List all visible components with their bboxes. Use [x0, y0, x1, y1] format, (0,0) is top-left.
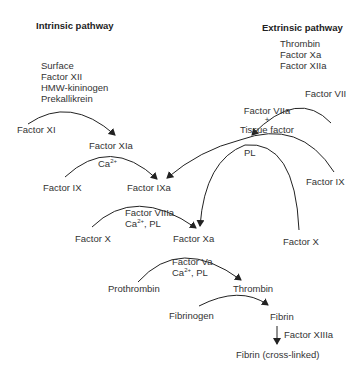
node-fibrin-crosslinked: Fibrin (cross-linked)	[236, 349, 319, 360]
intrinsic-pathway-title: Intrinsic pathway	[36, 20, 114, 31]
arrow-fibrinogen-to-fibrin	[199, 295, 268, 306]
node-fibrinogen: Fibrinogen	[169, 310, 214, 321]
node-factor-ix-right: Factor IX	[306, 176, 345, 187]
extrinsic-activators: Thrombin Factor Xa Factor XIIa	[280, 38, 326, 71]
node-thrombin: Thrombin	[233, 283, 273, 294]
extrinsic-pathway-title: Extrinsic pathway	[262, 22, 343, 33]
node-factor-ixa: Factor IXa	[127, 182, 171, 193]
intrinsic-activators: Surface Factor XII HMW-kininogen Prekall…	[41, 60, 108, 104]
cofactor-va: Factor Va Ca2+, PL	[172, 256, 212, 278]
node-factor-xa: Factor Xa	[173, 233, 214, 244]
node-prothrombin: Prothrombin	[108, 283, 160, 294]
node-factor-vii: Factor VII	[305, 88, 346, 99]
cofactor-xiiia: Factor XIIIa	[284, 329, 333, 340]
node-factor-ix-left: Factor IX	[43, 182, 82, 193]
node-factor-xi: Factor XI	[17, 124, 56, 135]
cofactor-ca: Ca2+	[98, 158, 117, 169]
node-fibrin: Fibrin	[270, 311, 294, 322]
node-factor-x-left: Factor X	[75, 233, 111, 244]
node-factor-viia-complex: Factor VIIa + Tissue factor	[222, 105, 312, 135]
node-factor-xia: Factor XIa	[89, 140, 133, 151]
node-factor-x-right: Factor X	[283, 236, 319, 247]
cofactor-viiia: Factor VIIIa Ca2+, PL	[125, 207, 174, 229]
cofactor-pl: PL	[244, 147, 256, 158]
